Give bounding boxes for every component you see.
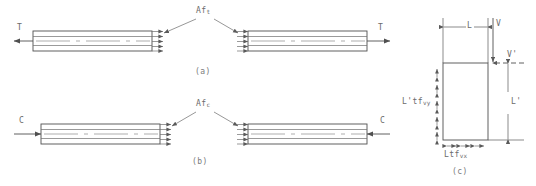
panel-a-force-left-label: T (17, 24, 22, 32)
panel-c-caption: (c) (452, 168, 468, 176)
panel-b-transfer-label-base: Af (196, 99, 206, 108)
figure-root: T T Aft (a) C C Afc (b) L V V' L' L'tfvy… (0, 0, 536, 186)
panel-b-group (14, 112, 390, 144)
panel-c-group (437, 18, 524, 146)
panel-c-shear-left-sub: vy (423, 99, 431, 106)
panel-b-left-bar (41, 124, 160, 144)
panel-a-transfer-label: Aft (196, 7, 210, 15)
panel-b-caption: (b) (192, 158, 208, 166)
panel-c-shear-bottom-sub: vx (460, 152, 468, 159)
panel-a-caption: (a) (195, 68, 211, 76)
panel-c-shear-left-label: L'tfvy (402, 98, 431, 106)
panel-b-transfer-label-sub: c (206, 101, 210, 108)
panel-a-force-right-label: T (378, 24, 383, 32)
panel-c-dim-right-label: L' (511, 98, 521, 106)
panel-c-force-vprime-label: V' (507, 51, 517, 59)
panel-b-right-transfer-arrows (237, 125, 248, 145)
panel-a-transfer-label-base: Af (196, 6, 206, 15)
panel-a-transfer-label-sub: t (206, 8, 210, 15)
panel-a-left-transfer-arrows (152, 32, 163, 52)
panel-b-left-transfer-arrows (160, 125, 171, 145)
panel-a-group (14, 19, 390, 51)
panel-a-leader-lines (164, 19, 238, 33)
panel-c-shear-left-base: L'tf (402, 97, 423, 106)
panel-b-force-right-label: C (380, 117, 385, 125)
panel-a-right-bar (248, 31, 367, 51)
panel-c-dim-top-label: L (467, 22, 472, 30)
panel-c-shear-bottom-label: Ltfvx (444, 151, 467, 159)
panel-a-right-transfer-arrows (237, 32, 248, 52)
panel-a-left-bar (33, 31, 152, 51)
panel-b-leader-lines (172, 112, 238, 126)
panel-b-force-left-label: C (19, 117, 24, 125)
panel-b-transfer-label: Afc (196, 100, 210, 108)
panel-c-shear-bottom-base: Ltf (444, 150, 460, 159)
panel-c-rectangle (443, 63, 488, 140)
panel-c-force-v-label: V (496, 20, 501, 28)
panel-b-right-bar (248, 124, 367, 144)
